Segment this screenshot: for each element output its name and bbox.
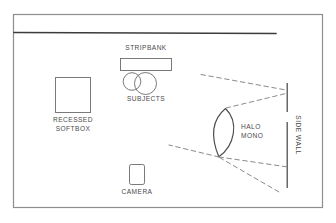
beam-lower-middle — [219, 157, 288, 167]
label-recessed-softbox-line1: RECESSED — [53, 116, 93, 124]
stripbank-shape — [121, 59, 172, 71]
label-stripbank: STRIPBANK — [125, 44, 166, 52]
beam-lower-upper — [169, 145, 219, 157]
back-wall-line — [14, 33, 276, 34]
label-recessed-softbox-line2: SOFTBOX — [56, 125, 91, 133]
halo-mono-shape — [214, 109, 234, 157]
label-subjects: SUBJECTS — [127, 95, 165, 103]
beam-upper-outer — [201, 75, 286, 91]
label-camera: CAMERA — [122, 188, 153, 196]
recessed-softbox-shape — [56, 78, 91, 113]
beam-upper-inner — [226, 94, 286, 109]
diagram-canvas — [0, 0, 336, 223]
label-side-wall: SIDE WALL — [294, 115, 302, 154]
label-halo-mono-line2: MONO — [241, 132, 263, 140]
diagram-frame — [14, 15, 323, 208]
lighting-setup-diagram: STRIPBANK SUBJECTS RECESSED SOFTBOX CAME… — [0, 0, 336, 223]
label-halo-mono-line1: HALO — [241, 123, 261, 131]
beam-lower-outer — [220, 158, 280, 193]
subject-right-circle — [135, 73, 157, 95]
camera-shape — [130, 165, 145, 185]
